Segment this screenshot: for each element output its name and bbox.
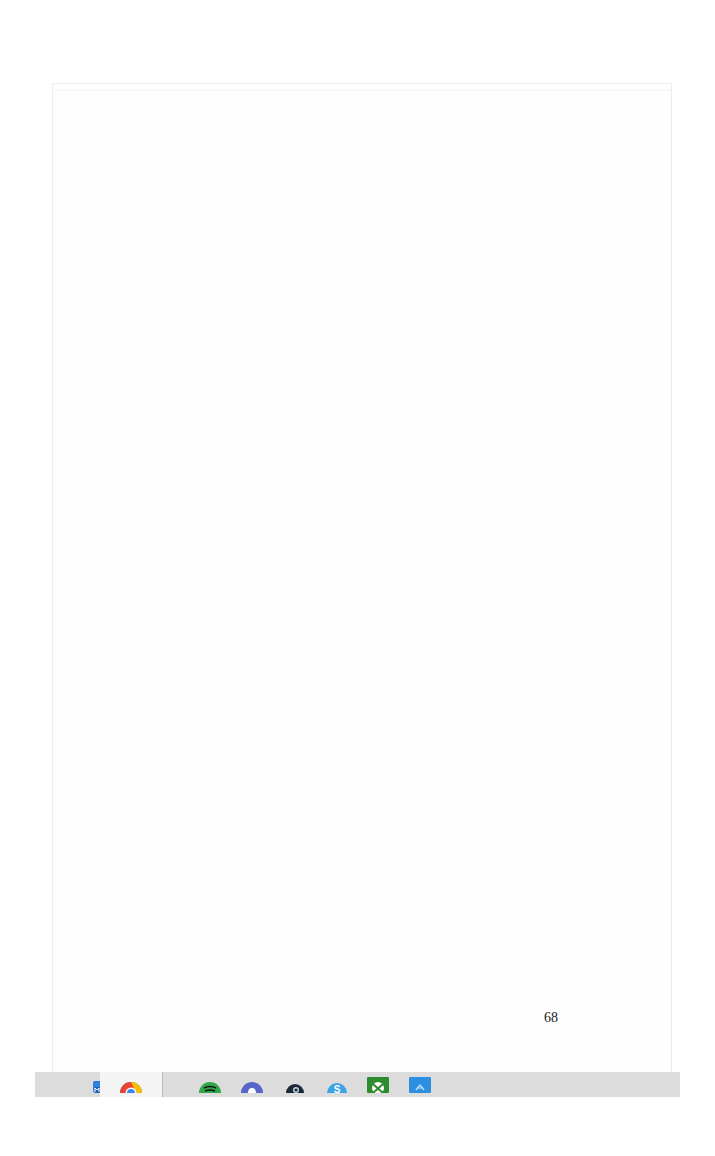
skype-icon: S (326, 1079, 348, 1097)
steam-icon (284, 1079, 306, 1097)
taskbar-separator (162, 1072, 163, 1097)
xbox-icon (367, 1077, 389, 1097)
document-page[interactable]: 68 (52, 83, 672, 1083)
chrome-icon (120, 1079, 142, 1097)
screen: 68 (0, 0, 715, 1156)
discord-icon (241, 1079, 263, 1097)
taskbar-item-skype[interactable]: S (322, 1072, 352, 1097)
taskbar-item-steam[interactable] (280, 1072, 310, 1097)
taskbar: S (35, 1072, 680, 1097)
taskbar-item-xbox[interactable] (363, 1072, 393, 1097)
taskbar-item-app-store[interactable] (405, 1072, 435, 1097)
page-number: 68 (544, 1010, 558, 1026)
partial-app-icon (43, 1089, 49, 1097)
taskbar-item-spotify[interactable] (195, 1072, 225, 1097)
app-store-icon (409, 1077, 431, 1097)
taskbar-item-chrome[interactable] (100, 1072, 162, 1097)
page-header-line (53, 90, 671, 91)
taskbar-item-discord[interactable] (237, 1072, 267, 1097)
spotify-icon (199, 1079, 221, 1097)
svg-text:S: S (334, 1084, 341, 1093)
taskbar-item-partial-app[interactable] (35, 1072, 55, 1097)
